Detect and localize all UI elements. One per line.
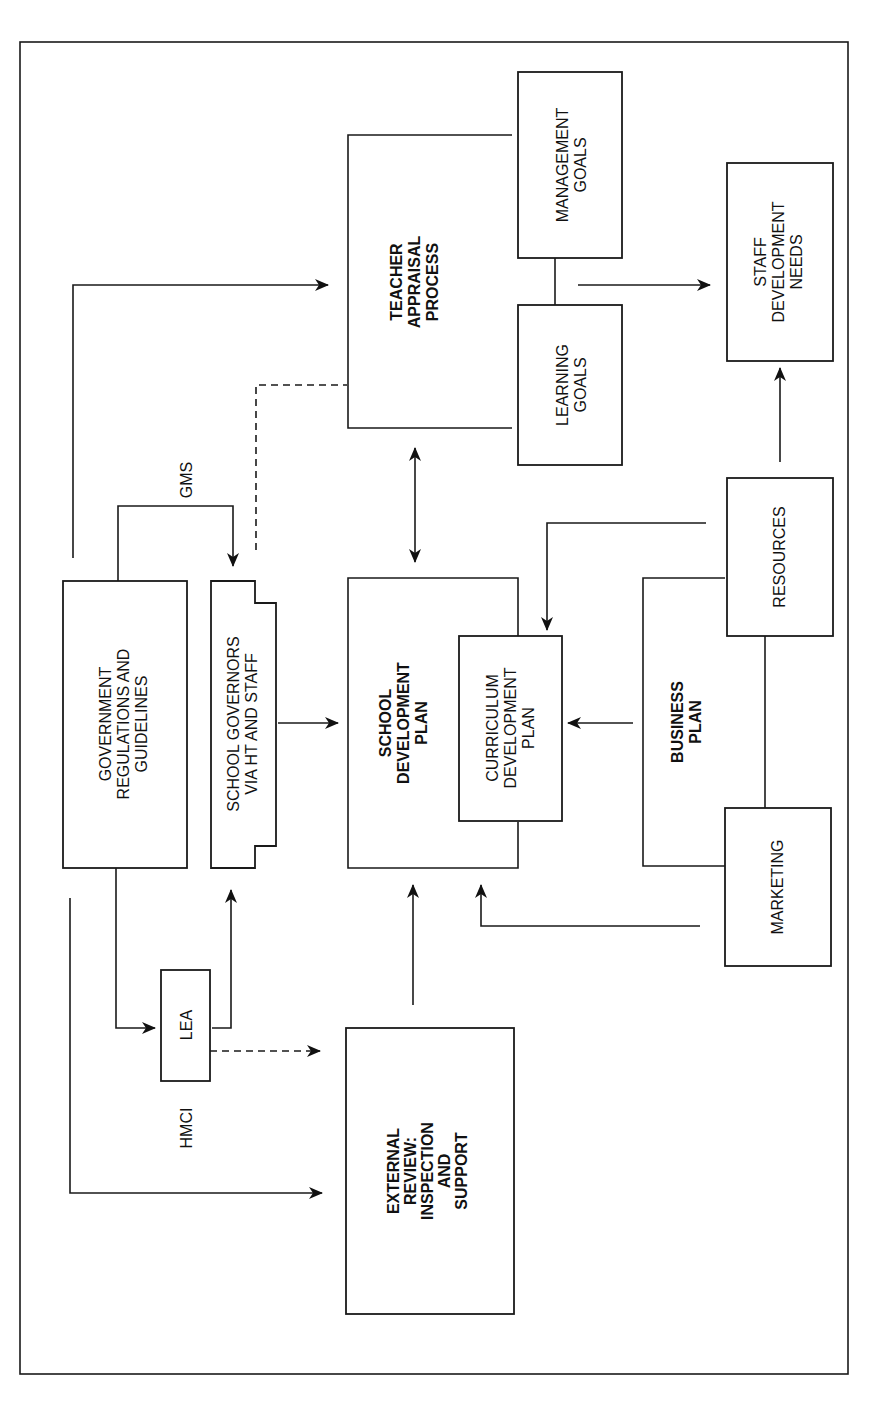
svg-text:DEVELOPMENT: DEVELOPMENT: [502, 667, 519, 788]
svg-text:CURRICULUM: CURRICULUM: [484, 674, 501, 782]
svg-text:SCHOOL GOVERNORS: SCHOOL GOVERNORS: [225, 636, 242, 811]
arrow-gov-to-governors: [118, 506, 233, 581]
external-review-label: EXTERNAL REVIEW: INSPECTION AND SUPPORT: [385, 1122, 470, 1220]
teacher-appraisal-label: TEACHER APPRAISAL PROCESS: [388, 236, 441, 329]
svg-text:DEVELOPMENT: DEVELOPMENT: [395, 662, 412, 784]
svg-text:RESOURCES: RESOURCES: [771, 506, 788, 607]
svg-text:LEARNING: LEARNING: [554, 344, 571, 426]
svg-text:AND: AND: [436, 1154, 453, 1189]
svg-text:SCHOOL: SCHOOL: [377, 689, 394, 758]
svg-text:REGULATIONS AND: REGULATIONS AND: [115, 649, 132, 800]
arrow-gov-to-appraisal: [73, 285, 328, 558]
svg-text:NEEDS: NEEDS: [788, 234, 805, 289]
arrow-gov-to-lea: [116, 868, 155, 1028]
svg-text:REVIEW:: REVIEW:: [402, 1137, 419, 1205]
svg-text:HMCI: HMCI: [178, 1108, 195, 1149]
svg-text:GOALS: GOALS: [572, 357, 589, 412]
svg-text:MANAGEMENT: MANAGEMENT: [554, 107, 571, 222]
dashed-governors-to-appraisal: [256, 385, 347, 550]
marketing-label: MARKETING: [769, 839, 786, 934]
lea-label: LEA: [178, 1010, 195, 1041]
svg-text:SUPPORT: SUPPORT: [453, 1132, 470, 1210]
svg-text:INSPECTION: INSPECTION: [419, 1122, 436, 1220]
svg-text:EXTERNAL: EXTERNAL: [385, 1128, 402, 1214]
svg-text:TEACHER: TEACHER: [388, 243, 405, 321]
svg-text:GOALS: GOALS: [572, 137, 589, 192]
svg-text:PLAN: PLAN: [687, 700, 704, 744]
arrow-lea-to-governors: [212, 890, 231, 1028]
arrow-marketing-to-sdp: [481, 885, 700, 926]
gms-label: GMS: [178, 462, 195, 498]
governors-label: SCHOOL GOVERNORS VIA HT AND STAFF: [225, 636, 260, 811]
svg-text:DEVELOPMENT: DEVELOPMENT: [770, 201, 787, 322]
svg-text:MARKETING: MARKETING: [769, 839, 786, 934]
svg-text:GOVERNMENT: GOVERNMENT: [97, 666, 114, 781]
diagram-canvas: TEACHER APPRAISAL PROCESS MANAGEMENT GOA…: [0, 0, 873, 1406]
svg-text:PLAN: PLAN: [520, 707, 537, 749]
business-plan-label: BUSINESS PLAN: [669, 681, 704, 763]
svg-text:LEA: LEA: [178, 1010, 195, 1041]
school-dev-plan-label: SCHOOL DEVELOPMENT PLAN: [377, 662, 430, 784]
svg-text:PROCESS: PROCESS: [424, 243, 441, 322]
svg-text:GMS: GMS: [178, 462, 195, 498]
svg-text:VIA HT AND STAFF: VIA HT AND STAFF: [243, 653, 260, 795]
svg-text:BUSINESS: BUSINESS: [669, 681, 686, 763]
svg-text:APPRAISAL: APPRAISAL: [406, 236, 423, 329]
svg-text:STAFF: STAFF: [752, 237, 769, 287]
hmci-label: HMCI: [178, 1108, 195, 1149]
svg-text:PLAN: PLAN: [413, 701, 430, 745]
svg-text:GUIDELINES: GUIDELINES: [133, 676, 150, 773]
arrow-resources-to-curriculum: [547, 523, 706, 630]
resources-label: RESOURCES: [771, 506, 788, 607]
